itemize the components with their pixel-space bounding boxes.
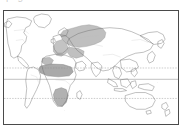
map-frame [3, 10, 179, 125]
latitude-line-group [4, 68, 178, 98]
landmass-sumatra [108, 79, 118, 87]
shaded-region-southern-africa [53, 88, 68, 107]
landmass-south-america [25, 67, 41, 108]
landmass-new-guinea [138, 84, 154, 91]
landmass-borneo [121, 79, 131, 88]
landmass-new-zealand [162, 102, 168, 110]
interior-detail-group [14, 30, 148, 85]
landmass-indochina [113, 66, 122, 79]
landmass-japan [147, 51, 155, 63]
landmass-philippines [132, 68, 138, 77]
landmass-siberia-east [140, 32, 165, 45]
landmass-australia [126, 93, 156, 110]
landmass-sulawesi [131, 81, 137, 89]
landmass-java [115, 89, 127, 92]
caption-strip: p g [0, 0, 182, 9]
landmass-tasmania [146, 110, 151, 114]
shaded-region-eurasia [60, 25, 105, 48]
landmass-north-america [6, 17, 32, 58]
map-canvas [4, 11, 178, 124]
landmass-central-america [18, 56, 29, 68]
landmass-arabia [76, 61, 86, 71]
shaded-region-caspian [67, 47, 84, 58]
shaded-region-sahel [39, 64, 74, 77]
landmass-greenland [34, 14, 52, 28]
caption-fragment-text: p g [6, 0, 25, 2]
figure-root: p g [0, 0, 182, 132]
landmass-madagascar [77, 91, 82, 100]
landmass-china-coast [121, 59, 139, 72]
landmass-new-zealand-south [165, 109, 170, 116]
